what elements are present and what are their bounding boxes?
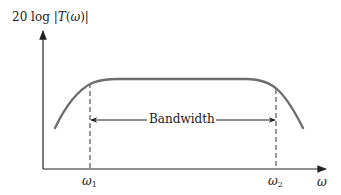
bandwidth-diagram [0, 0, 341, 195]
omega-2-label: ω2 [268, 175, 283, 189]
bandwidth-label: Bandwidth [148, 113, 216, 125]
omega-1-label: ω1 [82, 175, 97, 189]
x-axis-label: ω [317, 176, 327, 188]
y-axis-label: 20 log |T(ω)| [12, 11, 89, 23]
